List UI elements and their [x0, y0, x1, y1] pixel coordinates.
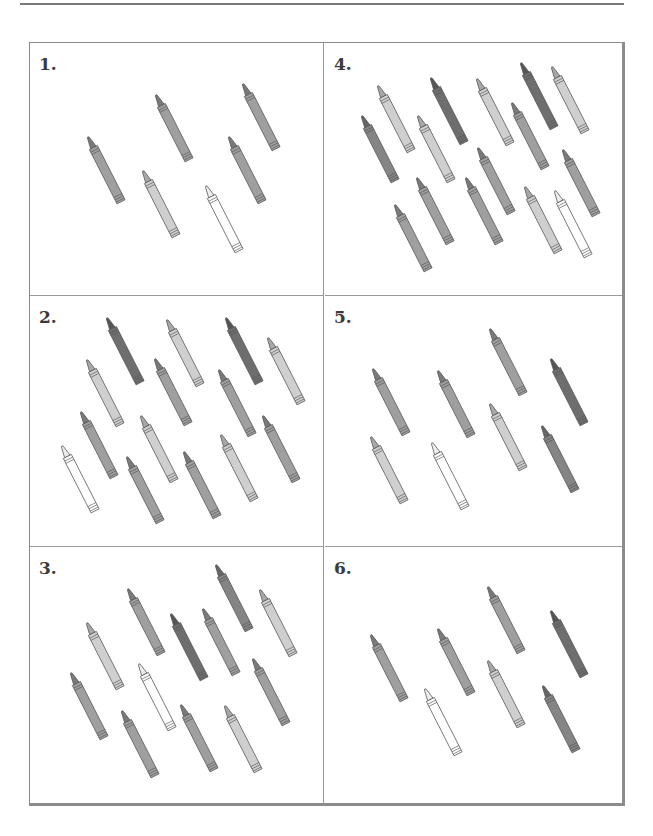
- panel-2: 2.: [30, 296, 324, 547]
- panel-3: 3.: [30, 547, 324, 803]
- crayon-icon: [481, 656, 529, 732]
- crayon-icon: [431, 366, 479, 442]
- crayon-group: [30, 547, 323, 803]
- crayon-icon: [64, 668, 112, 744]
- worksheet-grid: 1. 4. 2. 5. 3. 6.: [29, 42, 625, 806]
- crayon-icon: [253, 585, 301, 661]
- crayon-group: [325, 296, 622, 546]
- crayon-icon: [366, 364, 414, 440]
- crayon-group: [30, 43, 323, 295]
- crayon-icon: [256, 411, 304, 487]
- crayon-icon: [536, 681, 584, 757]
- panel-number: 1.: [39, 54, 57, 74]
- crayon-group: [30, 296, 323, 546]
- crayon-group: [325, 547, 622, 803]
- crayon-icon: [121, 584, 169, 660]
- crayon-icon: [425, 438, 473, 514]
- crayon-icon: [246, 654, 294, 730]
- crayon-icon: [535, 421, 583, 497]
- panel-number: 2.: [39, 307, 57, 327]
- crayon-icon: [481, 582, 529, 658]
- crayon-icon: [431, 624, 479, 700]
- crayon-icon: [136, 166, 184, 242]
- crayon-icon: [364, 630, 412, 706]
- crayon-icon: [544, 354, 592, 430]
- panel-number: 4.: [334, 54, 352, 74]
- crayon-icon: [261, 333, 309, 409]
- panel-number: 5.: [334, 307, 352, 327]
- crayon-icon: [483, 399, 531, 475]
- crayon-icon: [115, 706, 163, 782]
- crayon-icon: [174, 700, 222, 776]
- panel-number: 3.: [39, 558, 57, 578]
- panel-5: 5.: [325, 296, 622, 547]
- crayon-group: [325, 43, 622, 295]
- crayon-icon: [222, 132, 270, 208]
- crayon-icon: [418, 684, 466, 760]
- crayon-icon: [364, 432, 412, 508]
- crayon-icon: [236, 79, 284, 155]
- crayon-icon: [544, 606, 592, 682]
- panel-4: 4.: [325, 43, 622, 296]
- crayon-icon: [149, 90, 197, 166]
- panel-6: 6.: [325, 547, 622, 803]
- crayon-icon: [199, 181, 247, 257]
- crayon-icon: [80, 618, 128, 694]
- crayon-icon: [100, 313, 148, 389]
- panel-number: 6.: [334, 558, 352, 578]
- crayon-icon: [483, 324, 531, 400]
- top-rule: [20, 3, 624, 5]
- crayon-icon: [218, 701, 266, 777]
- crayon-icon: [132, 659, 180, 735]
- panel-1: 1.: [30, 43, 324, 296]
- crayon-icon: [177, 447, 225, 523]
- crayon-icon: [214, 430, 262, 506]
- crayon-icon: [81, 132, 129, 208]
